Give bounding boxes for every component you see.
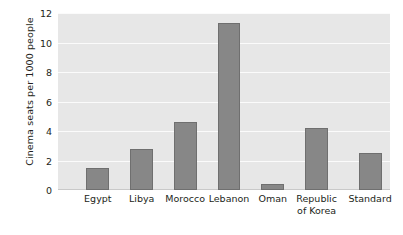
bar <box>174 122 197 190</box>
x-axis-tick-label: Oman <box>259 193 288 205</box>
y-axis-tick-label: 0 <box>46 185 52 196</box>
y-axis-tick-label: 2 <box>46 155 52 166</box>
x-axis-tick-label: Lebanon <box>209 193 250 205</box>
bar <box>305 128 328 190</box>
bar <box>86 168 109 190</box>
bar <box>218 23 241 190</box>
y-axis-tick-label: 4 <box>46 126 52 137</box>
x-axis-tick-label: Republic of Korea <box>296 193 337 216</box>
y-axis-tick-label: 12 <box>40 8 52 19</box>
y-axis-tick-labels: 024681012 <box>30 13 52 190</box>
y-axis-tick-label: 10 <box>40 37 52 48</box>
y-axis-tick-label: 6 <box>46 96 52 107</box>
x-axis-tick-label: Egypt <box>84 193 111 205</box>
y-axis-tick-label: 8 <box>46 67 52 78</box>
bar <box>261 184 284 190</box>
x-axis-tick-labels: EgyptLibyaMoroccoLebanonOmanRepublic of … <box>58 193 390 233</box>
plot-area <box>58 13 390 190</box>
x-axis-tick-label: Libya <box>129 193 154 205</box>
bar-chart: Cinema seats per 1000 people 024681012 E… <box>0 0 403 235</box>
bar <box>130 149 153 190</box>
x-axis-tick-label: Standard <box>348 193 391 205</box>
bar <box>359 153 382 190</box>
x-axis-tick-label: Morocco <box>165 193 205 205</box>
bars-layer <box>58 13 390 190</box>
